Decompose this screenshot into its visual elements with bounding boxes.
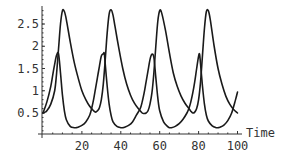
x-tick-label: 80 <box>191 139 205 153</box>
y-tick-label: 1 <box>32 84 39 98</box>
y-tick-label: 0.5 <box>17 106 39 120</box>
series-line-population-a <box>43 52 238 127</box>
x-tick-label: 100 <box>227 139 249 153</box>
x-tick-label: 60 <box>152 139 166 153</box>
y-axis: 0.511.522.5 <box>17 6 45 138</box>
plot-area <box>43 9 238 127</box>
y-tick-label: 2 <box>32 39 39 53</box>
y-tick-label: 2.5 <box>17 17 39 31</box>
series-line-population-b <box>43 9 238 113</box>
y-ticks: 0.511.522.5 <box>17 11 45 131</box>
x-tick-label: 40 <box>114 139 128 153</box>
y-tick-label: 1.5 <box>17 62 39 76</box>
x-tick-label: 20 <box>75 139 89 153</box>
line-chart: 0.511.522.5 20406080100 Time <box>0 0 294 156</box>
x-axis-label: Time <box>246 126 275 140</box>
x-axis: 20406080100 Time <box>38 126 275 153</box>
